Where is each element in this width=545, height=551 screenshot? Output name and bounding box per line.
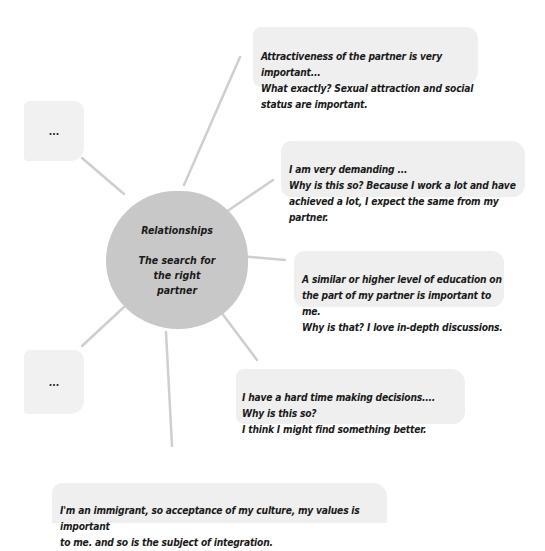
node-demanding[interactable]: I am very demanding ... Why is this so? … [281, 141, 525, 197]
connector-immigrant [166, 332, 172, 446]
node-decisions[interactable]: I have a hard time making decisions.... … [236, 369, 465, 424]
placeholder-bottom-text: ... [49, 377, 59, 388]
node-attractiveness[interactable]: Attractiveness of the partner is very im… [253, 27, 478, 87]
node-education[interactable]: A similar or higher level of education o… [294, 251, 504, 307]
placeholder-node-bottom[interactable]: ... [24, 350, 84, 414]
node-decisions-text: I have a hard time making decisions.... … [242, 392, 435, 435]
placeholder-top-text: ... [49, 126, 59, 137]
node-immigrant-text: I'm an immigrant, so acceptance of my cu… [60, 505, 360, 548]
connector-attractiveness [184, 57, 240, 185]
central-topic-subtitle: The search for the right partner [139, 253, 216, 298]
node-immigrant[interactable]: I'm an immigrant, so acceptance of my cu… [52, 483, 387, 523]
connector-placeholder-bottom [82, 307, 124, 346]
connector-decisions [218, 308, 257, 360]
placeholder-node-top[interactable]: ... [24, 101, 84, 161]
central-topic-title: Relationships [141, 223, 213, 238]
central-topic[interactable]: Relationships The search for the right p… [106, 191, 248, 329]
connector-placeholder-top [82, 158, 124, 194]
node-education-text: A similar or higher level of education o… [302, 274, 503, 333]
connector-demanding [226, 180, 273, 212]
